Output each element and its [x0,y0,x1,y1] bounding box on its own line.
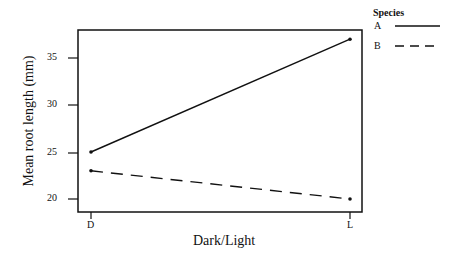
x-axis-title: Dark/Light [193,233,255,249]
series-line-a [91,39,350,152]
y-axis-title: Mean root length (mm) [21,55,37,186]
legend-title: Species [373,7,404,18]
series-layer [89,37,352,200]
data-point-a [89,150,93,154]
chart-canvas [0,0,456,261]
data-point-b [348,197,352,201]
y-tick-label-35: 35 [47,51,57,62]
legend-label-b: B [374,40,381,51]
y-axis-ticks [68,58,78,199]
y-tick-label-20: 20 [47,192,57,203]
data-point-a [348,37,352,41]
x-tick-label-l: L [347,219,353,230]
x-axis-ticks [91,212,350,219]
data-point-b [89,169,93,173]
legend-label-a: A [374,20,381,31]
x-tick-label-d: D [87,219,94,230]
series-line-b [91,171,350,199]
legend-lines [395,26,440,46]
y-tick-label-30: 30 [47,98,57,109]
y-tick-label-25: 25 [47,146,57,157]
